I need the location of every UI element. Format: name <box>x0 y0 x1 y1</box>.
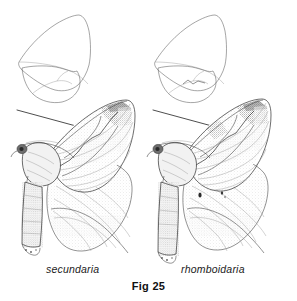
hindwing-discal-spot-2 <box>221 191 223 195</box>
figure-plate: secundaria rhomboidaria Fig 25 <box>0 0 297 301</box>
leader-line-right <box>153 110 212 126</box>
figure-caption: Fig 25 <box>0 281 297 292</box>
moth-illustration-rhomboidaria <box>147 95 278 263</box>
wing-outline-diagram-left <box>19 15 91 103</box>
moth-illustration-svg <box>0 0 297 301</box>
species-label-secundaria: secundaria <box>46 264 99 275</box>
species-label-rhomboidaria: rhomboidaria <box>181 264 245 275</box>
leader-line-left <box>17 110 76 126</box>
wing-outline-diagram-right <box>155 15 227 103</box>
moth-illustration-secundaria <box>11 96 142 260</box>
hindwing-discal-spot-1 <box>198 193 201 198</box>
